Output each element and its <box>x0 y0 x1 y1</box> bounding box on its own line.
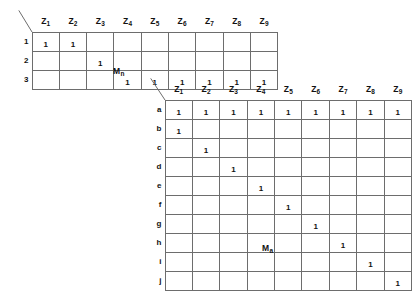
matrix-cell <box>220 252 247 271</box>
row-header-h: h <box>152 233 165 252</box>
matrix-cell: 1 <box>275 100 302 119</box>
cell-value: 1 <box>396 108 400 117</box>
caption-ma: Ma <box>262 243 273 254</box>
matrix-cell <box>165 233 192 252</box>
matrix-cell <box>247 119 274 138</box>
matrix-cell <box>196 51 223 70</box>
cell-value: 1 <box>71 40 75 49</box>
matrix-cell <box>329 271 356 290</box>
matrix-cell <box>192 195 219 214</box>
cell-value: 1 <box>125 78 129 87</box>
matrix-cell <box>247 157 274 176</box>
matrix-cell <box>384 176 411 195</box>
matrix-cell <box>223 32 250 51</box>
matrix-cell <box>165 195 192 214</box>
table-row: h1 <box>152 233 412 252</box>
column-header-sub: 7 <box>344 88 348 95</box>
cell-value: 1 <box>43 40 47 49</box>
matrix-cell <box>247 195 274 214</box>
matrix-cell: 1 <box>165 119 192 138</box>
matrix-cell <box>302 252 329 271</box>
matrix-cell: 1 <box>302 100 329 119</box>
matrix-body-ma: a111111111b1c1d1e1f1g1h1i1j1 <box>152 100 412 290</box>
column-header-z6: Z6 <box>168 14 195 32</box>
matrix-cell <box>302 271 329 290</box>
matrix-cell <box>192 214 219 233</box>
column-header-z8: Z8 <box>223 14 250 32</box>
table-row: 21 <box>20 51 278 70</box>
matrix-cell <box>165 214 192 233</box>
diagonal-slash-icon <box>20 14 32 32</box>
cell-value: 1 <box>313 108 317 117</box>
column-header-z7: Z7 <box>329 82 356 100</box>
column-header-sub: 1 <box>47 20 51 27</box>
table-row: e1 <box>152 176 412 195</box>
column-header-sub: 3 <box>234 88 238 95</box>
column-header-z2: Z2 <box>59 14 86 32</box>
column-header-z4: Z4 <box>247 82 274 100</box>
matrix-cell <box>384 119 411 138</box>
row-header-d: d <box>152 157 165 176</box>
column-header-z3: Z3 <box>87 14 114 32</box>
matrix-cell: 1 <box>32 32 59 51</box>
column-header-sub: 4 <box>128 20 132 27</box>
matrix-cell: 1 <box>59 32 86 51</box>
matrix-cell: 1 <box>192 138 219 157</box>
matrix-cell <box>192 233 219 252</box>
column-header-sub: 8 <box>238 20 242 27</box>
column-header-z3: Z3 <box>220 82 247 100</box>
row-header-g: g <box>152 214 165 233</box>
matrix-cell <box>275 214 302 233</box>
matrix-cell <box>87 32 114 51</box>
matrix-cell: 1 <box>384 100 411 119</box>
column-header-row: Z1Z2Z3Z4Z5Z6Z7Z8Z9 <box>20 14 278 32</box>
matrix-cell: 1 <box>247 176 274 195</box>
matrix-cell <box>165 252 192 271</box>
column-header-sub: 6 <box>317 88 321 95</box>
table-row: i1 <box>152 252 412 271</box>
matrix-cell <box>329 119 356 138</box>
cell-value: 1 <box>176 127 180 136</box>
matrix-cell <box>357 119 384 138</box>
cell-value: 1 <box>286 203 290 212</box>
matrix-cell <box>384 252 411 271</box>
matrix-cell <box>302 176 329 195</box>
column-header-sub: 9 <box>265 20 269 27</box>
column-header-sub: 5 <box>156 20 160 27</box>
table-row: g1 <box>152 214 412 233</box>
caption-mn-sub: n <box>120 70 124 77</box>
column-header-z9: Z9 <box>384 82 411 100</box>
matrix-cell <box>302 233 329 252</box>
column-header-z4: Z4 <box>114 14 141 32</box>
matrix-cell <box>357 233 384 252</box>
column-header-z1: Z1 <box>165 82 192 100</box>
matrix-cell <box>220 138 247 157</box>
matrix-cell <box>329 195 356 214</box>
column-header-sub: 4 <box>262 88 266 95</box>
matrix-cell: 1 <box>275 195 302 214</box>
matrix-cell <box>192 271 219 290</box>
matrix-cell <box>384 195 411 214</box>
diagonal-slash-icon <box>152 82 165 100</box>
matrix-cell <box>114 32 141 51</box>
cell-value: 1 <box>286 108 290 117</box>
matrix-cell: 1 <box>329 100 356 119</box>
table-row: j1 <box>152 271 412 290</box>
matrix-cell <box>275 157 302 176</box>
matrix-cell <box>357 195 384 214</box>
cell-value: 1 <box>176 108 180 117</box>
column-header-sub: 8 <box>371 88 375 95</box>
matrix-grid-mn: Z1Z2Z3Z4Z5Z6Z7Z8Z9 111213111111 <box>20 14 278 90</box>
row-header-f: f <box>152 195 165 214</box>
matrix-cell <box>302 138 329 157</box>
matrix-cell <box>220 119 247 138</box>
matrix-cell <box>59 70 86 89</box>
cell-value: 1 <box>98 59 102 68</box>
matrix-cell: 1 <box>302 214 329 233</box>
matrix-cell <box>275 252 302 271</box>
matrix-cell <box>329 157 356 176</box>
matrix-cell <box>275 138 302 157</box>
matrix-cell <box>192 252 219 271</box>
cell-value: 1 <box>259 184 263 193</box>
